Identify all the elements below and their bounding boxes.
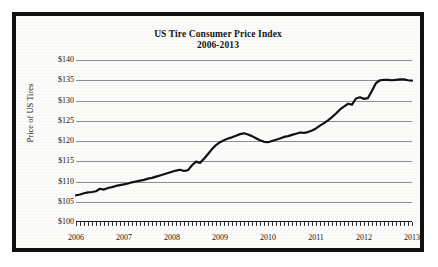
x-minor-tick bbox=[348, 222, 349, 226]
y-tick-label: $140 bbox=[40, 55, 74, 64]
x-minor-tick bbox=[296, 222, 297, 226]
x-minor-tick bbox=[240, 222, 241, 226]
x-minor-tick bbox=[180, 222, 181, 226]
x-minor-tick bbox=[332, 222, 333, 226]
x-minor-tick bbox=[264, 222, 265, 226]
x-minor-tick bbox=[92, 222, 93, 226]
plot-area: 20062007200820092010201120122013 bbox=[76, 60, 412, 222]
x-minor-tick bbox=[236, 222, 237, 226]
x-minor-tick bbox=[292, 222, 293, 226]
x-minor-tick bbox=[204, 222, 205, 226]
x-minor-tick bbox=[252, 222, 253, 226]
figure-container: US Tire Consumer Price Index 2006-2013 P… bbox=[0, 0, 438, 267]
x-tick-label: 2006 bbox=[56, 233, 96, 242]
x-minor-tick bbox=[272, 222, 273, 226]
chart-inner: US Tire Consumer Price Index 2006-2013 P… bbox=[16, 16, 420, 248]
x-minor-tick bbox=[184, 222, 185, 226]
y-tick-label: $100 bbox=[40, 217, 74, 226]
x-minor-tick bbox=[188, 222, 189, 226]
x-minor-tick bbox=[364, 222, 365, 226]
x-tick-label: 2008 bbox=[152, 233, 192, 242]
x-minor-tick bbox=[168, 222, 169, 226]
x-minor-tick bbox=[368, 222, 369, 226]
x-minor-tick bbox=[396, 222, 397, 226]
y-tick-label: $110 bbox=[40, 177, 74, 186]
series-line-price-of-us-tires bbox=[76, 79, 412, 195]
x-minor-tick bbox=[172, 222, 173, 226]
x-minor-tick bbox=[308, 222, 309, 226]
x-minor-tick bbox=[120, 222, 121, 226]
x-minor-tick bbox=[164, 222, 165, 226]
y-tick-label: $120 bbox=[40, 136, 74, 145]
x-tick-label: 2011 bbox=[296, 233, 336, 242]
x-minor-tick bbox=[80, 222, 81, 226]
x-minor-tick bbox=[244, 222, 245, 226]
y-tick-label: $115 bbox=[40, 156, 74, 165]
y-tick-label: $105 bbox=[40, 197, 74, 206]
x-tick-label: 2013 bbox=[392, 233, 432, 242]
x-minor-tick bbox=[100, 222, 101, 226]
x-minor-tick bbox=[360, 222, 361, 226]
x-minor-tick bbox=[336, 222, 337, 226]
x-minor-tick bbox=[344, 222, 345, 226]
x-minor-tick bbox=[324, 222, 325, 226]
x-minor-tick bbox=[376, 222, 377, 226]
x-minor-tick bbox=[412, 222, 413, 226]
y-tick-label: $130 bbox=[40, 96, 74, 105]
x-minor-tick bbox=[216, 222, 217, 226]
x-minor-tick bbox=[400, 222, 401, 226]
x-minor-tick bbox=[316, 222, 317, 226]
x-minor-tick bbox=[408, 222, 409, 226]
x-minor-tick bbox=[384, 222, 385, 226]
x-minor-tick bbox=[392, 222, 393, 226]
x-minor-tick bbox=[192, 222, 193, 226]
x-minor-tick bbox=[280, 222, 281, 226]
x-minor-tick bbox=[124, 222, 125, 226]
x-minor-tick bbox=[176, 222, 177, 226]
x-tick-label: 2009 bbox=[200, 233, 240, 242]
y-axis-tick-labels: $140$135$130$125$120$115$110$105$100 bbox=[34, 16, 74, 248]
x-minor-tick bbox=[96, 222, 97, 226]
x-tick-label: 2010 bbox=[248, 233, 288, 242]
x-tick-label: 2012 bbox=[344, 233, 384, 242]
x-minor-tick bbox=[268, 222, 269, 226]
x-minor-tick bbox=[108, 222, 109, 226]
x-minor-tick bbox=[116, 222, 117, 226]
x-minor-tick bbox=[104, 222, 105, 226]
x-minor-tick bbox=[112, 222, 113, 226]
x-minor-tick bbox=[404, 222, 405, 226]
x-minor-tick bbox=[232, 222, 233, 226]
x-minor-tick bbox=[156, 222, 157, 226]
x-minor-tick bbox=[352, 222, 353, 226]
x-minor-tick bbox=[304, 222, 305, 226]
x-minor-tick bbox=[136, 222, 137, 226]
x-minor-tick bbox=[128, 222, 129, 226]
x-minor-tick bbox=[356, 222, 357, 226]
x-minor-tick bbox=[88, 222, 89, 226]
x-minor-tick bbox=[200, 222, 201, 226]
x-minor-tick bbox=[220, 222, 221, 226]
x-minor-tick bbox=[284, 222, 285, 226]
x-minor-tick bbox=[228, 222, 229, 226]
x-minor-tick bbox=[224, 222, 225, 226]
data-series-line bbox=[76, 60, 412, 222]
x-minor-tick bbox=[196, 222, 197, 226]
x-minor-tick bbox=[328, 222, 329, 226]
chart-frame: US Tire Consumer Price Index 2006-2013 P… bbox=[12, 12, 424, 252]
chart-subtitle: 2006-2013 bbox=[16, 40, 420, 51]
x-minor-tick bbox=[76, 222, 77, 226]
x-minor-tick bbox=[248, 222, 249, 226]
x-minor-tick bbox=[312, 222, 313, 226]
x-minor-tick bbox=[380, 222, 381, 226]
x-minor-tick bbox=[132, 222, 133, 226]
x-minor-tick bbox=[148, 222, 149, 226]
x-minor-tick bbox=[372, 222, 373, 226]
x-minor-tick bbox=[256, 222, 257, 226]
chart-title: US Tire Consumer Price Index bbox=[16, 29, 420, 40]
x-minor-tick bbox=[152, 222, 153, 226]
x-minor-tick bbox=[84, 222, 85, 226]
x-minor-tick bbox=[388, 222, 389, 226]
y-tick-label: $135 bbox=[40, 75, 74, 84]
x-minor-tick bbox=[340, 222, 341, 226]
x-minor-tick bbox=[288, 222, 289, 226]
